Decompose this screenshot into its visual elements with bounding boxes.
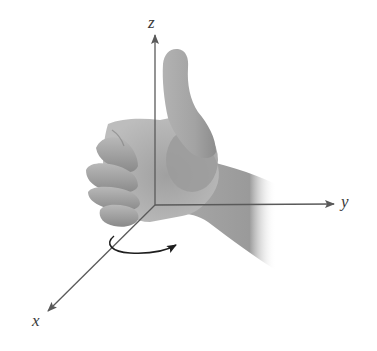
x-axis-label: x	[32, 312, 40, 329]
y-axis-label: y	[341, 193, 349, 210]
z-axis-label: z	[148, 14, 155, 31]
rotation-arrow	[110, 236, 176, 253]
hand-illustration	[86, 49, 276, 270]
right-hand-rule-diagram	[0, 0, 377, 351]
x-axis	[48, 205, 155, 311]
